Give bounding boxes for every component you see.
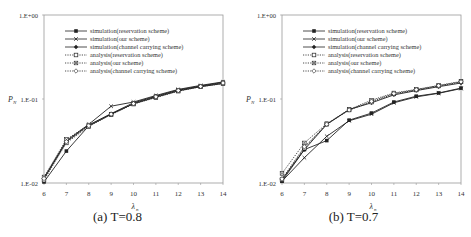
legend-entry-label: analysis(our scheme) <box>328 59 381 67</box>
legend-entry-label: analysis(channel carrying scheme) <box>90 67 177 75</box>
series-line <box>44 83 223 179</box>
legend-entry-label: simulation(reservation scheme) <box>90 27 169 35</box>
marker-diamond-filled <box>312 45 316 49</box>
chart-a-caption: (a) T=0.8 <box>0 209 235 225</box>
x-tick-label: 8 <box>87 190 91 198</box>
series-line <box>44 82 223 179</box>
marker-diamond-open <box>74 69 78 73</box>
chart-panel-b: 678910111213141.E-021.E-011.E+00PNλnsimu… <box>236 0 471 237</box>
y-tick-label: 1.E-02 <box>258 180 276 187</box>
series-3 <box>42 82 225 182</box>
x-tick-label: 13 <box>435 190 443 198</box>
x-tick-label: 11 <box>391 190 398 198</box>
series-line <box>44 83 223 177</box>
y-tick-label: 1.E+00 <box>19 12 38 19</box>
legend-entry-label: analysis(reservation scheme) <box>90 51 163 59</box>
x-tick-label: 13 <box>197 190 205 198</box>
x-tick-label: 6 <box>42 190 46 198</box>
x-tick-label: 7 <box>303 190 307 198</box>
series-line <box>44 82 223 178</box>
legend-entry-label: simulation(our scheme) <box>328 35 388 43</box>
chart-b-plot: 678910111213141.E-021.E-011.E+00PNλnsimu… <box>236 0 471 237</box>
series-2 <box>280 81 463 182</box>
x-tick-label: 7 <box>65 190 69 198</box>
svg-text:N: N <box>12 100 17 105</box>
y-tick-label: 1.E-01 <box>258 96 276 103</box>
x-tick-label: 12 <box>175 190 183 198</box>
series-line <box>282 83 461 180</box>
series-line <box>282 81 461 173</box>
marker-diamond-open <box>312 69 316 73</box>
marker-square-open <box>312 53 316 57</box>
legend: simulation(reservation scheme)simulation… <box>303 27 421 75</box>
chart-panel-a: 678910111213141.E-021.E-011.E+00PNλnsimu… <box>0 0 235 237</box>
x-tick-label: 12 <box>413 190 421 198</box>
series-4 <box>42 81 225 179</box>
series-line <box>282 82 461 180</box>
x-tick-label: 9 <box>109 190 113 198</box>
x-tick-label: 10 <box>130 190 138 198</box>
svg-text:N: N <box>250 100 255 105</box>
y-tick-label: 1.E-01 <box>20 96 38 103</box>
x-tick-label: 6 <box>280 190 284 198</box>
series-5 <box>280 80 463 181</box>
legend-entry-label: analysis(channel carrying scheme) <box>328 67 415 75</box>
marker-square-filled <box>312 29 316 33</box>
series-3 <box>280 80 463 181</box>
legend-entry-label: simulation(channel carrying scheme) <box>90 43 183 51</box>
marker-diamond-filled <box>74 45 78 49</box>
series-1 <box>42 80 225 180</box>
marker-square-open <box>74 53 78 57</box>
y-tick-label: 1.E-02 <box>20 180 38 187</box>
y-tick-label: 1.E+00 <box>257 12 276 19</box>
marker-square-filled <box>325 139 329 143</box>
x-tick-label: 8 <box>325 190 329 198</box>
x-tick-label: 14 <box>220 190 228 198</box>
series-5 <box>42 81 225 181</box>
x-tick-label: 10 <box>368 190 376 198</box>
legend-entry-label: simulation(channel carrying scheme) <box>328 43 421 51</box>
series-line <box>282 82 461 179</box>
series-line <box>44 84 223 182</box>
legend-entry-label: simulation(reservation scheme) <box>328 27 407 35</box>
marker-square-filled <box>65 149 69 153</box>
legend-entry-label: analysis(reservation scheme) <box>328 51 401 59</box>
legend: simulation(reservation scheme)simulation… <box>65 27 183 75</box>
chart-b-caption: (b) T=0.7 <box>236 209 471 225</box>
x-tick-label: 14 <box>458 190 466 198</box>
legend-entry-label: simulation(our scheme) <box>90 35 150 43</box>
marker-x <box>325 134 329 138</box>
x-tick-label: 11 <box>153 190 160 198</box>
marker-x <box>303 156 307 160</box>
legend-entry-label: analysis(our scheme) <box>90 59 143 67</box>
series-0 <box>42 82 225 184</box>
series-line <box>44 84 223 181</box>
chart-a-plot: 678910111213141.E-021.E-011.E+00PNλnsimu… <box>0 0 235 237</box>
series-2 <box>42 80 225 181</box>
x-tick-label: 9 <box>347 190 351 198</box>
marker-square-filled <box>74 29 78 33</box>
